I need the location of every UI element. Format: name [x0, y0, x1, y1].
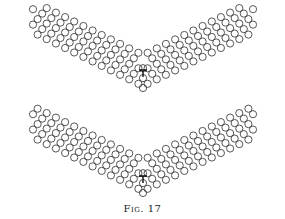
atom: [126, 45, 133, 52]
atom: [107, 141, 114, 148]
atom: [208, 18, 215, 25]
atom: [227, 114, 234, 121]
atom: [208, 123, 215, 130]
atom: [98, 136, 105, 143]
atom: [139, 84, 146, 91]
atom: [43, 5, 50, 12]
atom: [34, 105, 41, 112]
atom: [245, 105, 252, 112]
atom: [190, 132, 197, 139]
atom: [139, 189, 146, 196]
atom: [190, 27, 197, 34]
atom: [162, 40, 169, 47]
atom: [71, 123, 78, 130]
atom: [236, 110, 243, 117]
atom: [29, 6, 36, 13]
atom: [144, 49, 151, 56]
atom: [249, 6, 256, 13]
atom: [181, 31, 188, 38]
atom: [135, 154, 142, 161]
atom: [153, 45, 160, 52]
lower-lattice: [29, 105, 256, 196]
atom: [89, 132, 96, 139]
atom: [117, 145, 124, 152]
atom: [71, 18, 78, 25]
figure-caption: Fig. 17: [0, 203, 285, 214]
atom: [62, 119, 69, 126]
lattice-figure: [0, 0, 285, 205]
atom: [217, 14, 224, 21]
atom: [236, 5, 243, 12]
atom: [80, 22, 87, 29]
atom: [98, 31, 105, 38]
atom: [62, 14, 69, 21]
atom: [153, 150, 160, 157]
atom: [135, 49, 142, 56]
atom: [43, 110, 50, 117]
atom: [162, 145, 169, 152]
atom: [126, 150, 133, 157]
atom: [217, 119, 224, 126]
atom: [107, 36, 114, 43]
dislocation-icon: [139, 176, 147, 183]
atom: [199, 22, 206, 29]
atom: [117, 40, 124, 47]
atom: [52, 114, 59, 121]
atom: [172, 141, 179, 148]
atom: [172, 36, 179, 43]
atom: [199, 127, 206, 134]
upper-lattice: [29, 5, 256, 92]
atom: [89, 27, 96, 34]
atom: [52, 9, 59, 16]
atom: [80, 127, 87, 134]
atom: [181, 136, 188, 143]
atom: [144, 154, 151, 161]
atom: [227, 9, 234, 16]
